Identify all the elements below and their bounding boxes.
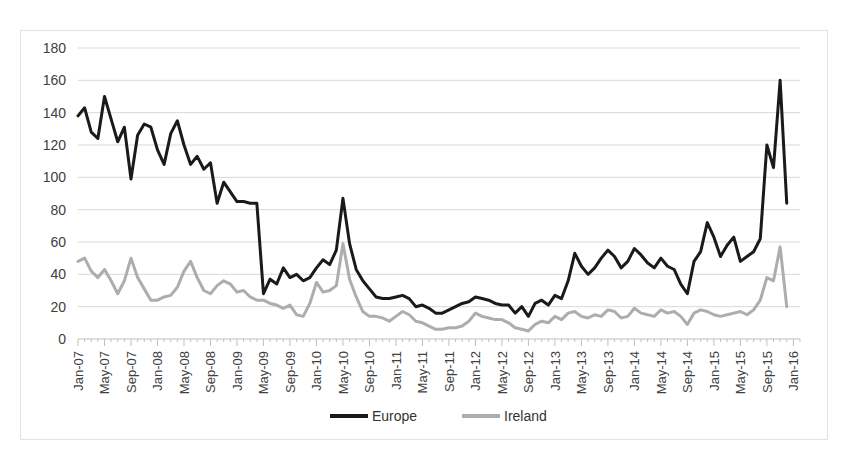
x-axis-tick-label: Sep-15	[760, 351, 775, 393]
x-axis-tick-label: Sep-12	[521, 351, 536, 393]
y-axis-tick-label: 160	[43, 72, 67, 88]
line-chart: 020406080100120140160180 Jan-07May-07Sep…	[0, 0, 842, 471]
y-axis-tick-label: 20	[50, 299, 66, 315]
x-axis-tick-label: May-08	[177, 351, 192, 394]
x-axis-tick-label: May-07	[97, 351, 112, 394]
x-axis-tick-label: Sep-11	[442, 351, 457, 392]
x-axis	[78, 339, 800, 346]
legend-label-europe: Europe	[372, 408, 417, 424]
y-axis-tick-label: 180	[43, 40, 67, 56]
x-axis-tick-label: Sep-08	[203, 351, 218, 393]
x-axis-tick-label: Sep-13	[601, 351, 616, 393]
x-axis-tick-label: May-13	[574, 351, 589, 394]
x-axis-tick-label: Jan-09	[230, 351, 245, 391]
x-axis-tick-label: Jan-10	[309, 351, 324, 391]
y-axis-tick-label: 0	[58, 331, 66, 347]
x-axis-tick-label: May-11	[415, 351, 430, 393]
y-axis-tick-label: 60	[50, 234, 66, 250]
x-axis-tick-label: Sep-09	[283, 351, 298, 393]
x-axis-tick-label: Sep-07	[124, 351, 139, 393]
x-axis-tick-label: Sep-14	[680, 351, 695, 393]
x-axis-tick-label: Jan-12	[468, 351, 483, 391]
x-axis-tick-label: Jan-14	[627, 351, 642, 391]
data-series-group	[78, 80, 787, 331]
x-axis-tick-label: May-15	[733, 351, 748, 394]
y-axis-tick-label: 140	[43, 105, 67, 121]
y-axis-tick-label: 80	[50, 202, 66, 218]
x-axis-tick-label: Jan-13	[548, 351, 563, 391]
x-axis-tick-labels: Jan-07May-07Sep-07Jan-08May-08Sep-08Jan-…	[71, 351, 801, 394]
y-axis-tick-labels: 020406080100120140160180	[43, 40, 67, 347]
x-axis-tick-label: Sep-10	[362, 351, 377, 393]
legend-label-ireland: Ireland	[504, 408, 547, 424]
x-axis-tick-label: May-12	[495, 351, 510, 394]
x-axis-tick-label: Jan-07	[71, 351, 86, 391]
y-axis-tick-label: 120	[43, 137, 67, 153]
x-axis-tick-label: Jan-08	[150, 351, 165, 391]
series-line-ireland	[78, 244, 787, 331]
series-line-europe	[78, 80, 787, 316]
x-axis-tick-label: May-09	[256, 351, 271, 394]
x-axis-tick-label: May-10	[336, 351, 351, 394]
x-axis-tick-label: Jan-15	[707, 351, 722, 391]
y-axis-tick-label: 100	[43, 169, 67, 185]
x-axis-tick-label: May-14	[654, 351, 669, 394]
x-axis-tick-label: Jan-11	[389, 351, 404, 390]
x-axis-tick-label: Jan-16	[786, 351, 801, 391]
chart-legend: EuropeIreland	[330, 408, 547, 424]
y-axis-tick-label: 40	[50, 266, 66, 282]
